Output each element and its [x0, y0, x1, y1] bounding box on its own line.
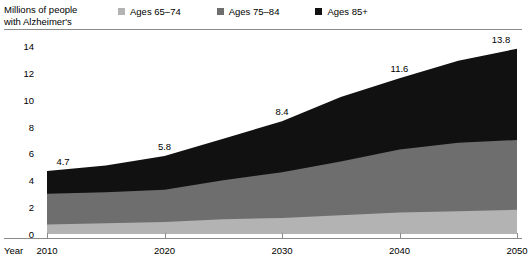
value-label-2040: 11.6 — [391, 63, 409, 74]
value-label-2030: 8.4 — [275, 106, 288, 117]
value-label-2010: 4.7 — [56, 156, 69, 167]
x-tick-mark-2050 — [517, 233, 518, 238]
legend-item-2: Ages 75–84 — [217, 6, 280, 17]
x-tick-2040: 2040 — [389, 245, 410, 256]
legend-label-1: Ages 65–74 — [130, 6, 181, 17]
x-tick-2020: 2020 — [154, 245, 175, 256]
x-tick-2030: 2030 — [271, 245, 292, 256]
legend-swatch-ages-75-84 — [217, 8, 224, 15]
x-tick-2010: 2010 — [36, 245, 57, 256]
x-tick-mark-2040 — [400, 233, 401, 238]
x-tick-mark-2010 — [47, 233, 48, 238]
y-tick-14: 14 — [8, 41, 34, 52]
x-axis-title: Year — [4, 245, 23, 256]
y-tick-4: 4 — [8, 175, 34, 186]
x-axis-line — [4, 238, 522, 239]
y-axis-title-line-1: Millions of people — [4, 4, 124, 16]
y-axis-title: Millions of people with Alzheimer's — [4, 4, 124, 27]
x-tick-mark-2030 — [282, 233, 283, 238]
legend-label-3: Ages 85+ — [327, 6, 367, 17]
y-tick-12: 12 — [8, 67, 34, 78]
legend-swatch-ages-65-74 — [118, 8, 125, 15]
x-tick-mark-2020 — [165, 233, 166, 238]
x-tick-2050: 2050 — [506, 245, 527, 256]
header-divider — [4, 29, 522, 30]
y-tick-6: 6 — [8, 148, 34, 159]
legend-label-2: Ages 75–84 — [229, 6, 280, 17]
stacked-area-series — [47, 46, 517, 234]
legend-swatch-ages-85-plus — [315, 8, 322, 15]
plot-area — [47, 46, 517, 234]
y-tick-8: 8 — [8, 121, 34, 132]
legend-item-1: Ages 65–74 — [118, 6, 181, 17]
y-tick-2: 2 — [8, 202, 34, 213]
chart-legend: Ages 65–74Ages 75–84Ages 85+ — [118, 6, 368, 17]
value-label-2050: 13.8 — [492, 34, 511, 45]
y-axis-title-line-2: with Alzheimer's — [4, 16, 124, 28]
value-label-2020: 5.8 — [158, 141, 171, 152]
y-tick-10: 10 — [8, 94, 34, 105]
legend-item-3: Ages 85+ — [315, 6, 367, 17]
